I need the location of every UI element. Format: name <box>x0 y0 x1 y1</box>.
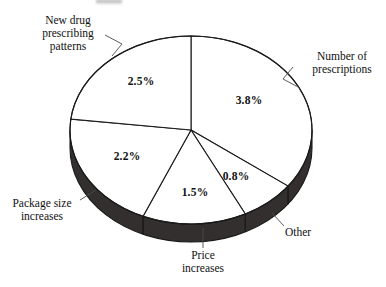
scan-artifact <box>96 0 122 5</box>
callout-line: Price <box>163 249 243 262</box>
callout-line: prescribing <box>22 27 114 40</box>
callout-label-number-of-prescriptions: Number of prescriptions <box>300 50 384 76</box>
callout-label-other: Other <box>285 226 345 239</box>
pie-slice-value: 2.2% <box>114 150 141 162</box>
pie-slice-value: 1.5% <box>182 186 209 198</box>
pie-slice-value: 3.8% <box>236 94 263 106</box>
callout-line: patterns <box>22 40 114 53</box>
callout-label-package-size: Package size increases <box>2 197 82 223</box>
callout-line: prescriptions <box>300 63 384 76</box>
callout-line: Package size <box>2 197 82 210</box>
pie-chart-figure: 3.8%0.8%1.5%2.2%2.5% New drug prescribin… <box>0 0 386 287</box>
callout-label-price-increases: Price increases <box>163 249 243 275</box>
pie-slice-value: 0.8% <box>223 170 250 182</box>
leader-other <box>272 213 284 226</box>
callout-line: increases <box>2 210 82 223</box>
pie-slice-value: 2.5% <box>128 75 155 87</box>
callout-line: New drug <box>22 14 114 27</box>
callout-line: Number of <box>300 50 384 63</box>
callout-label-new-drug: New drug prescribing patterns <box>22 14 114 54</box>
callout-line: increases <box>163 262 243 275</box>
callout-line: Other <box>285 226 345 239</box>
